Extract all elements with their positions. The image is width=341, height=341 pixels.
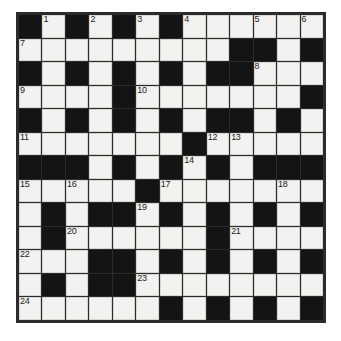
grid-cell-open[interactable]	[183, 297, 205, 320]
grid-cell-open[interactable]	[89, 39, 111, 62]
grid-cell-open[interactable]	[277, 227, 299, 250]
grid-cell-open[interactable]	[136, 39, 158, 62]
grid-cell-open[interactable]: 3	[136, 15, 158, 38]
grid-cell-open[interactable]: 16	[66, 180, 88, 203]
grid-cell-open[interactable]	[277, 86, 299, 109]
grid-cell-open[interactable]	[207, 15, 229, 38]
grid-cell-open[interactable]: 9	[19, 86, 41, 109]
grid-cell-open[interactable]	[183, 86, 205, 109]
grid-cell-open[interactable]	[230, 250, 252, 273]
grid-cell-open[interactable]	[254, 109, 276, 132]
grid-cell-open[interactable]	[183, 62, 205, 85]
grid-cell-open[interactable]: 12	[207, 133, 229, 156]
grid-cell-open[interactable]	[160, 274, 182, 297]
grid-cell-open[interactable]: 19	[136, 203, 158, 226]
grid-cell-open[interactable]	[207, 39, 229, 62]
grid-cell-open[interactable]	[66, 274, 88, 297]
grid-cell-open[interactable]	[66, 133, 88, 156]
grid-cell-open[interactable]	[183, 274, 205, 297]
grid-cell-open[interactable]	[113, 133, 135, 156]
grid-cell-open[interactable]	[136, 297, 158, 320]
grid-cell-open[interactable]: 24	[19, 297, 41, 320]
grid-cell-open[interactable]: 1	[42, 15, 64, 38]
grid-cell-open[interactable]	[230, 86, 252, 109]
grid-cell-open[interactable]	[89, 227, 111, 250]
grid-cell-open[interactable]	[66, 297, 88, 320]
grid-cell-open[interactable]	[160, 86, 182, 109]
grid-cell-open[interactable]: 11	[19, 133, 41, 156]
grid-cell-open[interactable]	[42, 297, 64, 320]
grid-cell-open[interactable]	[42, 86, 64, 109]
grid-cell-open[interactable]	[254, 180, 276, 203]
grid-cell-open[interactable]	[19, 227, 41, 250]
grid-cell-open[interactable]	[277, 62, 299, 85]
grid-cell-open[interactable]	[136, 250, 158, 273]
grid-cell-open[interactable]: 23	[136, 274, 158, 297]
grid-cell-open[interactable]: 13	[230, 133, 252, 156]
grid-cell-open[interactable]	[183, 109, 205, 132]
grid-cell-open[interactable]	[19, 203, 41, 226]
grid-cell-open[interactable]: 7	[19, 39, 41, 62]
grid-cell-open[interactable]	[136, 62, 158, 85]
grid-cell-open[interactable]	[89, 156, 111, 179]
grid-cell-open[interactable]	[277, 133, 299, 156]
grid-cell-open[interactable]	[113, 227, 135, 250]
grid-cell-open[interactable]	[230, 15, 252, 38]
grid-cell-open[interactable]	[113, 297, 135, 320]
grid-cell-open[interactable]	[277, 274, 299, 297]
grid-cell-open[interactable]	[207, 274, 229, 297]
grid-cell-open[interactable]	[42, 109, 64, 132]
grid-cell-open[interactable]	[277, 297, 299, 320]
grid-cell-open[interactable]	[136, 109, 158, 132]
grid-cell-open[interactable]: 5	[254, 15, 276, 38]
grid-cell-open[interactable]	[183, 250, 205, 273]
grid-cell-open[interactable]	[183, 227, 205, 250]
grid-cell-open[interactable]	[301, 62, 323, 85]
grid-cell-open[interactable]	[277, 250, 299, 273]
grid-cell-open[interactable]	[66, 39, 88, 62]
grid-cell-open[interactable]	[207, 86, 229, 109]
grid-cell-open[interactable]	[89, 86, 111, 109]
grid-cell-open[interactable]	[66, 203, 88, 226]
grid-cell-open[interactable]	[230, 297, 252, 320]
grid-cell-open[interactable]	[301, 133, 323, 156]
grid-cell-open[interactable]	[254, 274, 276, 297]
grid-cell-open[interactable]	[254, 86, 276, 109]
grid-cell-open[interactable]	[301, 227, 323, 250]
grid-cell-open[interactable]	[136, 133, 158, 156]
grid-cell-open[interactable]: 10	[136, 86, 158, 109]
grid-cell-open[interactable]	[89, 62, 111, 85]
grid-cell-open[interactable]: 18	[277, 180, 299, 203]
grid-cell-open[interactable]: 17	[160, 180, 182, 203]
grid-cell-open[interactable]	[277, 15, 299, 38]
grid-cell-open[interactable]	[66, 86, 88, 109]
grid-cell-open[interactable]: 4	[183, 15, 205, 38]
grid-cell-open[interactable]	[301, 109, 323, 132]
grid-cell-open[interactable]	[89, 180, 111, 203]
grid-cell-open[interactable]	[160, 227, 182, 250]
grid-cell-open[interactable]	[113, 39, 135, 62]
grid-cell-open[interactable]	[89, 133, 111, 156]
grid-cell-open[interactable]	[113, 180, 135, 203]
grid-cell-open[interactable]	[42, 133, 64, 156]
grid-cell-open[interactable]	[42, 62, 64, 85]
grid-cell-open[interactable]	[301, 180, 323, 203]
grid-cell-open[interactable]	[183, 203, 205, 226]
grid-cell-open[interactable]	[136, 156, 158, 179]
grid-cell-open[interactable]: 8	[254, 62, 276, 85]
grid-cell-open[interactable]	[207, 180, 229, 203]
grid-cell-open[interactable]	[254, 133, 276, 156]
grid-cell-open[interactable]: 14	[183, 156, 205, 179]
grid-cell-open[interactable]	[230, 180, 252, 203]
grid-cell-open[interactable]: 20	[66, 227, 88, 250]
grid-cell-open[interactable]	[19, 274, 41, 297]
grid-cell-open[interactable]	[42, 39, 64, 62]
grid-cell-open[interactable]	[254, 227, 276, 250]
grid-cell-open[interactable]	[160, 133, 182, 156]
grid-cell-open[interactable]	[42, 250, 64, 273]
grid-cell-open[interactable]	[42, 180, 64, 203]
grid-cell-open[interactable]	[89, 109, 111, 132]
grid-cell-open[interactable]	[277, 203, 299, 226]
grid-cell-open[interactable]	[277, 39, 299, 62]
grid-cell-open[interactable]	[183, 180, 205, 203]
